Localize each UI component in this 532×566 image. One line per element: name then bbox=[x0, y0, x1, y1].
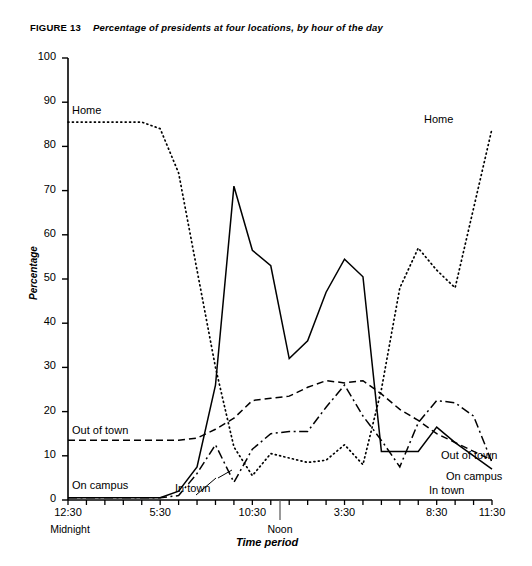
y-tick-label: 40 bbox=[30, 315, 56, 327]
out-of-town-label-right: Out of town bbox=[441, 449, 497, 461]
x-tick-label: 5:30 bbox=[130, 506, 190, 518]
y-tick-label: 0 bbox=[30, 492, 56, 504]
on-campus-label-right: On campus bbox=[446, 470, 502, 482]
x-tick-label: 12:30 bbox=[38, 506, 98, 518]
y-tick-label: 30 bbox=[30, 359, 56, 371]
home-label-right: Home bbox=[424, 113, 453, 125]
series-line-home bbox=[68, 122, 492, 476]
y-axis-title: Percentage bbox=[28, 246, 39, 300]
y-tick-label: 20 bbox=[30, 404, 56, 416]
in-town-label-right: In town bbox=[429, 484, 464, 496]
out-of-town-label-left: Out of town bbox=[72, 424, 128, 436]
x-tick-label: 8:30 bbox=[407, 506, 467, 518]
series-layer bbox=[68, 122, 492, 498]
y-tick-label: 80 bbox=[30, 138, 56, 150]
x-tick-label: 10:30 bbox=[222, 506, 282, 518]
series-line-in-town bbox=[68, 385, 492, 498]
x-tick-label: 3:30 bbox=[315, 506, 375, 518]
noon-label: Noon bbox=[252, 523, 308, 535]
y-tick-label: 90 bbox=[30, 94, 56, 106]
in-town-label-left: In town bbox=[175, 482, 210, 494]
series-line-on-campus bbox=[68, 186, 492, 498]
series-line-out-of-town bbox=[68, 381, 492, 461]
figure-page: FIGURE 13Percentage of presidents at fou… bbox=[0, 0, 532, 566]
x-tick-label: 11:30 bbox=[462, 506, 522, 518]
y-tick-label: 100 bbox=[30, 50, 56, 62]
x-axis-title: Time period bbox=[236, 536, 298, 548]
y-tick-label: 10 bbox=[30, 448, 56, 460]
y-tick-label: 70 bbox=[30, 183, 56, 195]
home-label-left: Home bbox=[72, 104, 101, 116]
y-axis-ticks bbox=[62, 58, 68, 500]
midnight-label: Midnight bbox=[38, 523, 102, 535]
y-tick-label: 60 bbox=[30, 227, 56, 239]
on-campus-label-left: On campus bbox=[72, 479, 128, 491]
